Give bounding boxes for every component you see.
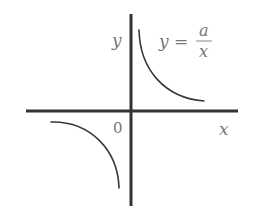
- x-axis-label: x: [219, 119, 229, 139]
- formula-lhs: y: [158, 31, 169, 51]
- third-quadrant-branch: [51, 122, 119, 188]
- formula-numerator: a: [199, 21, 209, 40]
- formula-equals: =: [174, 31, 188, 51]
- formula: y = a x: [158, 21, 212, 61]
- hyperbola-diagram: y x 0 y = a x: [0, 0, 255, 219]
- first-quadrant-branch: [139, 30, 204, 101]
- origin-label: 0: [113, 119, 123, 137]
- formula-denominator: x: [199, 42, 208, 61]
- y-axis-label: y: [111, 30, 122, 50]
